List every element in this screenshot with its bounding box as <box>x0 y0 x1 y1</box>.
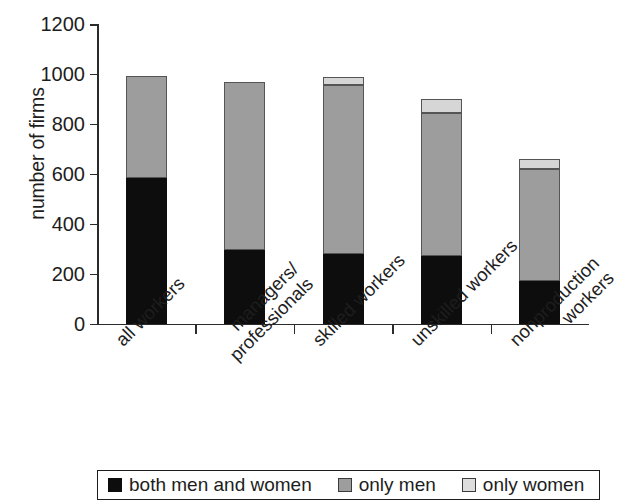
legend-item: only men <box>338 474 436 496</box>
x-axis-tick <box>195 325 197 334</box>
x-axis-tick <box>392 325 394 334</box>
bar-segment-gray <box>519 169 560 281</box>
legend-item-label: only men <box>359 474 436 496</box>
legend-item-label: only women <box>483 474 584 496</box>
y-axis-tick: 1200 <box>90 24 97 26</box>
bar-segment-light <box>323 77 364 85</box>
y-axis-tick-label: 800 <box>52 114 85 134</box>
bar-segment-gray <box>224 82 265 250</box>
bar-segment-gray <box>323 85 364 253</box>
bar-segment-light <box>519 159 560 169</box>
legend-item-label: both men and women <box>129 474 312 496</box>
y-axis-tick: 200 <box>90 274 97 276</box>
y-axis-line <box>97 24 99 325</box>
x-axis-tick <box>294 325 296 334</box>
y-axis-tick-label: 400 <box>52 214 85 234</box>
legend-item: only women <box>462 474 584 496</box>
legend-swatch-icon <box>462 478 476 492</box>
y-axis-tick-label: 200 <box>52 264 85 284</box>
y-axis-tick: 600 <box>90 174 97 176</box>
y-axis-tick: 800 <box>90 124 97 126</box>
y-axis-tick-label: 0 <box>74 314 85 334</box>
legend-item: both men and women <box>108 474 312 496</box>
x-axis-tick <box>491 325 493 334</box>
bar-segment-gray <box>421 113 462 257</box>
legend-swatch-icon <box>338 478 352 492</box>
y-axis-tick: 400 <box>90 224 97 226</box>
legend-swatch-icon <box>108 478 122 492</box>
y-axis-tick: 1000 <box>90 74 97 76</box>
chart-legend: both men and women only men only women <box>97 470 600 500</box>
bar-segment-light <box>421 99 462 112</box>
bar-segment-gray <box>126 76 167 177</box>
y-axis-tick-label: 1000 <box>41 64 86 84</box>
y-axis-tick-label: 1200 <box>41 14 86 34</box>
y-axis-tick-label: 600 <box>52 164 85 184</box>
y-axis-tick: 0 <box>90 324 97 326</box>
